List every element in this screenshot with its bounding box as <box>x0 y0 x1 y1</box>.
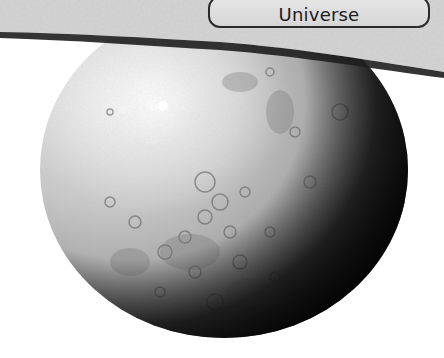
universe-button-label: Universe <box>279 4 360 25</box>
universe-button[interactable]: Universe <box>208 0 430 28</box>
scene: Universe <box>0 0 444 358</box>
